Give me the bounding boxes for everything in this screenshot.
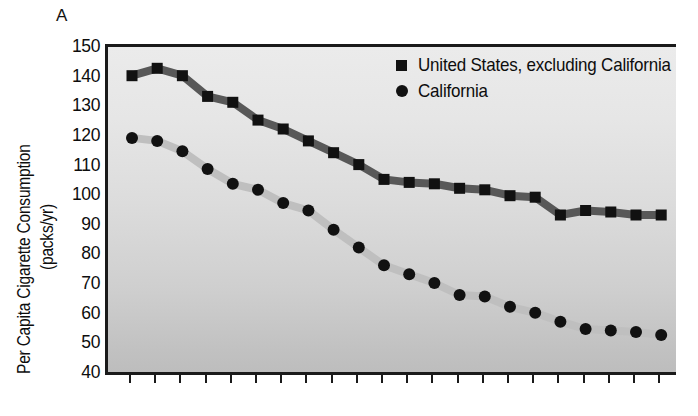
y-tick-label-140: 140 (72, 66, 100, 85)
california-point-12 (428, 277, 440, 289)
california-point-13 (454, 289, 466, 301)
us-point-1 (152, 63, 163, 74)
us-point-5 (253, 115, 264, 126)
y-axis-title-line2: (packs/yr) (37, 204, 58, 270)
california-point-18 (580, 323, 592, 335)
california-point-0 (126, 132, 138, 144)
y-tick-label-40: 40 (81, 362, 100, 381)
y-axis-tick-labels: 150140130120110100908070605040 (58, 0, 100, 416)
legend-item-us: United States, excluding California (396, 52, 671, 78)
y-tick-label-130: 130 (72, 95, 100, 114)
us-point-8 (328, 147, 339, 158)
legend-item-california: California (396, 78, 671, 104)
y-tick-label-70: 70 (81, 273, 100, 292)
california-point-10 (378, 259, 390, 271)
y-tick-label-80: 80 (81, 244, 100, 263)
circle-marker-icon (396, 85, 418, 97)
us-point-14 (479, 184, 490, 195)
us-point-18 (580, 205, 591, 216)
us-point-13 (454, 183, 465, 194)
california-point-21 (655, 329, 667, 341)
legend-label-us: United States, excluding California (418, 54, 671, 76)
y-tick-label-150: 150 (72, 36, 100, 55)
square-marker-icon (396, 60, 418, 71)
us-point-19 (605, 207, 616, 218)
california-point-8 (328, 224, 340, 236)
y-tick-label-120: 120 (72, 125, 100, 144)
y-axis-title: Per Capita Cigarette Consumption (packs/… (0, 0, 56, 416)
us-point-21 (656, 210, 667, 221)
us-point-12 (429, 178, 440, 189)
us-point-11 (404, 177, 415, 188)
california-point-20 (630, 326, 642, 338)
y-tick-label-50: 50 (81, 332, 100, 351)
california-point-1 (151, 135, 163, 147)
us-point-7 (303, 135, 314, 146)
california-point-7 (302, 205, 314, 217)
california-point-3 (202, 163, 214, 175)
y-tick-label-90: 90 (81, 214, 100, 233)
figure-panel-a: A Per Capita Cigarette Consumption (pack… (0, 0, 698, 416)
california-point-5 (252, 184, 264, 196)
legend: United States, excluding California Cali… (396, 52, 671, 104)
us-point-20 (631, 210, 642, 221)
us-point-16 (530, 192, 541, 203)
us-point-6 (278, 124, 289, 135)
california-markers (126, 132, 667, 341)
us-point-15 (505, 190, 516, 201)
california-point-15 (504, 301, 516, 313)
california-point-9 (353, 242, 365, 254)
california-point-2 (176, 145, 188, 157)
us-point-3 (202, 91, 213, 102)
y-tick-label-100: 100 (72, 184, 100, 203)
y-axis-title-line1: Per Capita Cigarette Consumption (14, 144, 35, 374)
california-point-14 (479, 291, 491, 303)
us-point-10 (379, 174, 390, 185)
california-point-16 (529, 307, 541, 319)
california-point-17 (554, 316, 566, 328)
california-point-19 (605, 325, 617, 337)
us-point-2 (177, 70, 188, 81)
california-point-4 (227, 178, 239, 190)
us-point-9 (353, 159, 364, 170)
legend-label-california: California (418, 80, 488, 102)
us-point-17 (555, 210, 566, 221)
california-point-11 (403, 268, 415, 280)
y-tick-label-110: 110 (73, 155, 100, 174)
california-point-6 (277, 197, 289, 209)
us-point-0 (127, 70, 138, 81)
us-point-4 (227, 97, 238, 108)
y-tick-label-60: 60 (81, 303, 100, 322)
